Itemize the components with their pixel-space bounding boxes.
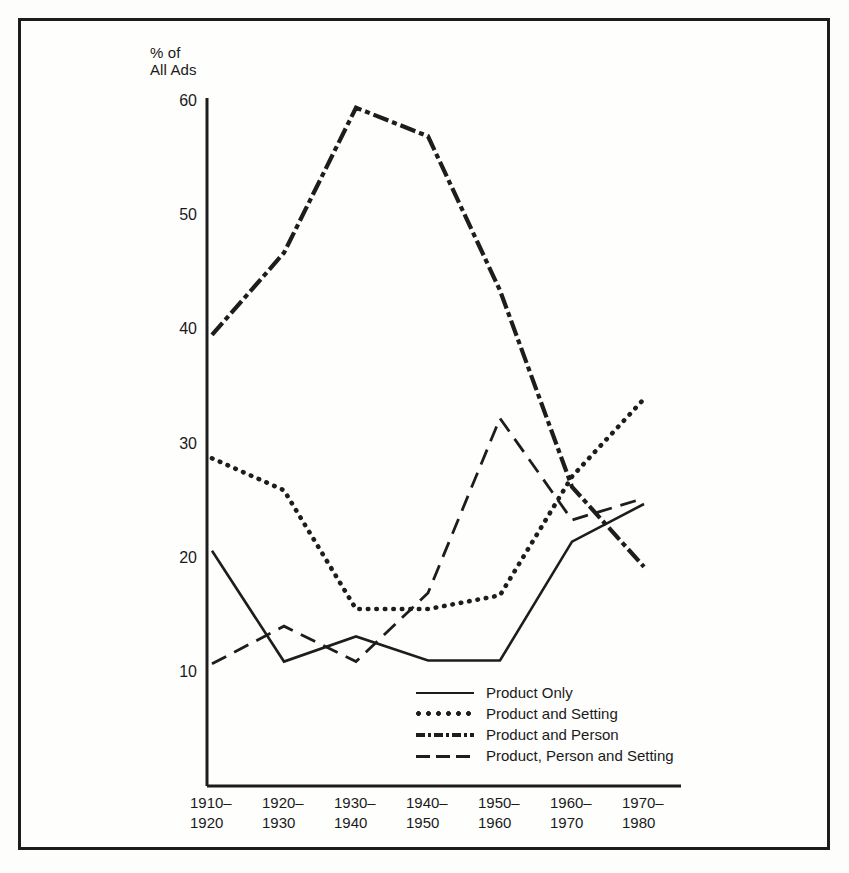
legend-label: Product, Person and Setting <box>486 747 674 764</box>
x-tick-label: 1970– 1980 <box>622 793 702 833</box>
series-line-2 <box>212 108 644 567</box>
x-tick-label: 1950– 1960 <box>478 793 558 833</box>
x-tick-label: 1960– 1970 <box>550 793 630 833</box>
x-tick-label: 1940– 1950 <box>406 793 486 833</box>
legend-item: Product, Person and Setting <box>414 745 694 766</box>
legend-item: Product and Setting <box>414 703 694 724</box>
x-tick-label: 1910– 1920 <box>190 793 270 833</box>
legend-label: Product Only <box>486 684 573 701</box>
y-tick-label: 50 <box>155 206 197 224</box>
x-tick-label: 1930– 1940 <box>334 793 414 833</box>
legend-swatch-solid-icon <box>414 686 476 700</box>
legend-item: Product and Person <box>414 724 694 745</box>
legend-label: Product and Person <box>486 726 619 743</box>
legend-swatch-dashed-icon <box>414 749 476 763</box>
y-tick-label: 20 <box>155 549 197 567</box>
legend-label: Product and Setting <box>486 705 618 722</box>
y-tick-label: 60 <box>155 92 197 110</box>
legend-swatch-dash-dot-icon <box>414 728 476 742</box>
figure-page: % of All Ads 102030405060 1910– 19201920… <box>0 0 849 873</box>
series-line-3 <box>212 418 644 664</box>
y-tick-label: 10 <box>155 663 197 681</box>
chart-series-group <box>212 108 644 664</box>
y-tick-label: 40 <box>155 320 197 338</box>
chart-legend: Product OnlyProduct and SettingProduct a… <box>414 682 694 766</box>
legend-item: Product Only <box>414 682 694 703</box>
series-line-1 <box>212 399 644 609</box>
x-tick-label: 1920– 1930 <box>262 793 342 833</box>
series-line-0 <box>212 504 644 662</box>
y-tick-label: 30 <box>155 435 197 453</box>
legend-swatch-dotted-icon <box>414 707 476 721</box>
